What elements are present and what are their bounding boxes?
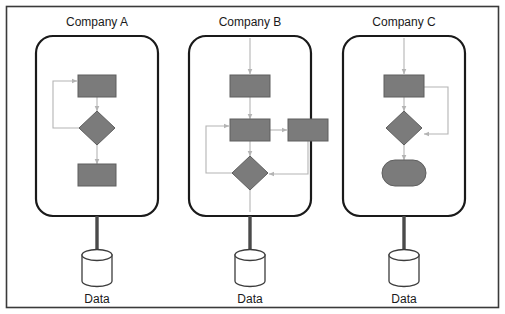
diagram-canvas: Company ADataCompany BDataCompany CData (0, 0, 505, 314)
data-store-top (389, 250, 419, 261)
diagram-svg: Company ADataCompany BDataCompany CData (0, 0, 505, 314)
process-node (230, 75, 270, 97)
process-node (78, 164, 116, 186)
data-store-top (235, 250, 265, 261)
process-node (288, 119, 328, 141)
panel-title: Company B (219, 15, 282, 29)
data-store-top (82, 250, 112, 261)
panel-title: Company A (66, 15, 128, 29)
data-store-label: Data (237, 292, 263, 306)
terminator-node (382, 160, 426, 186)
process-node (78, 75, 116, 97)
data-store-label: Data (391, 292, 417, 306)
panel-title: Company C (372, 15, 436, 29)
process-node (230, 119, 270, 141)
process-node (384, 75, 424, 97)
data-store-label: Data (84, 292, 110, 306)
